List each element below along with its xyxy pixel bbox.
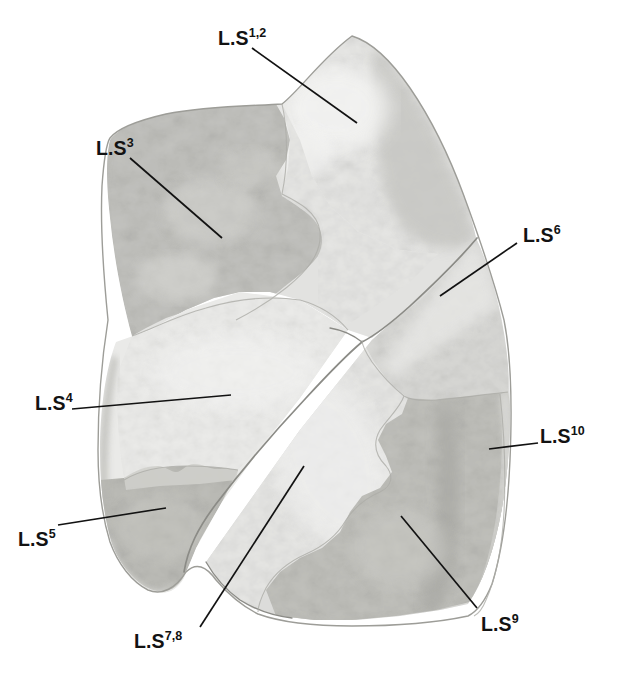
segment-label-superscript: 7,8 <box>165 629 183 643</box>
lung-segment-figure: L.S1,2L.S3L.S6L.S4L.S10L.S5L.S7,8L.S9 <box>0 0 617 689</box>
segment-label-base: L.S <box>134 630 165 652</box>
segment-label-base: L.S <box>96 137 127 159</box>
segment-label-ls78: L.S7,8 <box>134 630 182 651</box>
segment-label-ls5: L.S5 <box>18 528 56 549</box>
anterior-segment-mottle-2 <box>136 254 216 302</box>
anterior-segment-mottle-3 <box>220 148 280 188</box>
segment-label-base: L.S <box>35 392 66 414</box>
segment-label-base: L.S <box>18 528 49 550</box>
segment-label-superscript: 1,2 <box>249 26 267 40</box>
segment-label-superscript: 4 <box>66 391 73 405</box>
lateral-basal-mottle <box>352 508 448 588</box>
segment-label-base: L.S <box>218 27 249 49</box>
inferior-lingula-mottle <box>116 494 204 562</box>
segment-label-superscript: 10 <box>571 424 585 438</box>
segment-label-ls3: L.S3 <box>96 137 134 158</box>
segment-label-ls12: L.S1,2 <box>218 27 266 48</box>
segment-label-base: L.S <box>481 613 512 635</box>
anterior-segment-mottle <box>164 180 256 244</box>
segment-label-base: L.S <box>540 425 571 447</box>
segment-label-base: L.S <box>523 224 554 246</box>
segment-label-superscript: 5 <box>49 527 56 541</box>
segment-label-superscript: 6 <box>554 223 561 237</box>
segment-label-ls4: L.S4 <box>35 392 73 413</box>
segment-label-ls9: L.S9 <box>481 613 519 634</box>
segment-label-ls6: L.S6 <box>523 224 561 245</box>
segment-label-superscript: 3 <box>127 136 134 150</box>
lung-illustration <box>0 0 617 689</box>
segment-label-superscript: 9 <box>512 612 519 626</box>
segment-label-ls10: L.S10 <box>540 425 585 446</box>
